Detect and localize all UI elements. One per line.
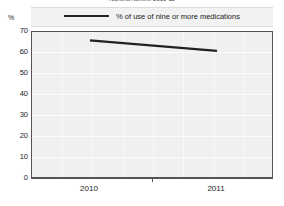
y-tick-label-10: 10 [4,153,28,161]
legend-line-swatch-icon [64,15,109,17]
y-tick-label-70: 70 [4,27,28,35]
y-tick-label-0: 0 [4,174,28,182]
y-tick-label-30: 30 [4,111,28,119]
legend-item-label: % of use of nine or more medications [116,12,240,21]
x-tick-mark-mid [152,178,153,182]
y-axis-tick-labels: 70 60 50 40 30 20 10 0 [0,0,28,206]
chart-title: Nursing homes, 2010-11 [0,0,284,1]
y-tick-label-50: 50 [4,69,28,77]
y-tick-label-40: 40 [4,90,28,98]
y-tick-label-20: 20 [4,132,28,140]
x-tick-label-2011: 2011 [186,184,246,193]
x-tick-label-2010: 2010 [59,184,119,193]
chart-legend: % of use of nine or more medications [31,7,273,25]
y-tick-label-60: 60 [4,48,28,56]
plot-area [31,31,273,178]
series-line-medications [32,32,273,178]
